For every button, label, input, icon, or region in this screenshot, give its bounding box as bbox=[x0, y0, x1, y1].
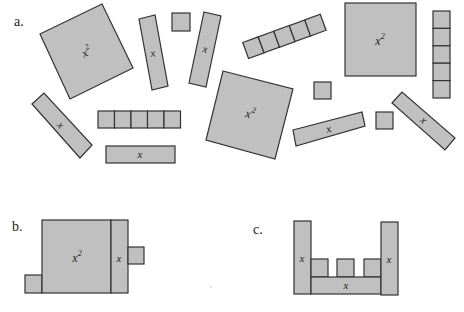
x-tile: x bbox=[139, 15, 168, 90]
x-tile: x bbox=[32, 93, 92, 158]
part-a-label: a. bbox=[14, 14, 24, 29]
unit-tile-column bbox=[433, 11, 450, 98]
svg-text:x: x bbox=[299, 252, 305, 264]
unit-tile bbox=[376, 112, 393, 129]
x-tile: x bbox=[294, 221, 311, 294]
unit-tile bbox=[314, 82, 331, 99]
unit-tile bbox=[128, 247, 144, 264]
unit-tile bbox=[364, 259, 381, 277]
x-tile: x bbox=[392, 92, 455, 150]
unit-tile bbox=[172, 13, 190, 31]
part-b-group: x2 x bbox=[25, 220, 144, 293]
part-c-label: c. bbox=[253, 222, 263, 237]
unit-tile-row-tilted bbox=[243, 14, 326, 58]
speck bbox=[210, 286, 211, 287]
svg-text:x: x bbox=[386, 253, 392, 265]
x-tile: x bbox=[106, 146, 175, 163]
x-squared-tile: x2 bbox=[40, 4, 133, 99]
unit-tile bbox=[337, 259, 354, 277]
unit-tile bbox=[311, 259, 328, 277]
svg-text:x: x bbox=[116, 252, 122, 264]
x-tile: x bbox=[381, 222, 398, 295]
unit-tile bbox=[25, 275, 42, 293]
part-a-group: x2 x x x x bbox=[32, 3, 455, 163]
x-tile: x bbox=[111, 220, 128, 293]
part-b-label: b. bbox=[12, 219, 23, 234]
x-squared-tile: x2 bbox=[206, 71, 293, 159]
unit-tile-row bbox=[98, 111, 181, 128]
x-squared-tile: x2 bbox=[345, 3, 416, 76]
part-c-group: x x x bbox=[294, 221, 398, 295]
x-tile: x bbox=[311, 277, 381, 294]
x-tile: x bbox=[293, 112, 365, 146]
x-squared-tile: x2 bbox=[42, 220, 111, 293]
x-tile: x bbox=[189, 12, 221, 87]
algebra-tiles-diagram: a. b. c. x2 x x x bbox=[0, 0, 464, 312]
svg-text:x: x bbox=[343, 279, 349, 291]
svg-text:x: x bbox=[137, 148, 143, 160]
